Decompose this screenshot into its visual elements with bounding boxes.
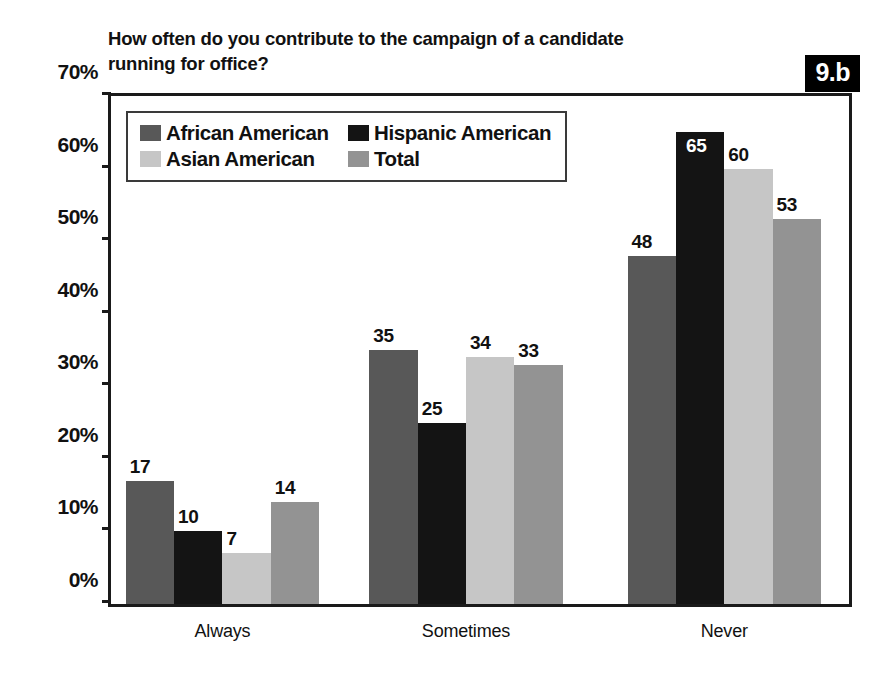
- y-axis-tick-label: 0%: [69, 568, 98, 592]
- bar-slot: 53: [773, 96, 821, 604]
- bar-slot: 48: [628, 96, 676, 604]
- legend-item: Hispanic American: [348, 121, 551, 145]
- bar[interactable]: 10: [174, 531, 222, 604]
- bar-value-label: 10: [178, 506, 199, 528]
- y-axis-tick-label: 20%: [57, 423, 98, 447]
- bar-slot: 60: [724, 96, 772, 604]
- bar-value-label: 17: [130, 456, 151, 478]
- bar[interactable]: 35: [369, 350, 417, 604]
- legend-label: Hispanic American: [374, 121, 551, 145]
- bar-value-label: 53: [777, 194, 798, 216]
- bar-value-label: 33: [518, 340, 539, 362]
- plot-area: 0%10%20%30%40%50%60%70% 1710714352534334…: [111, 96, 849, 604]
- y-axis-tick-mark: [102, 165, 111, 168]
- figure-number-badge: 9.b: [805, 55, 860, 92]
- legend-swatch-icon: [140, 125, 161, 141]
- y-axis-tick-mark: [102, 455, 111, 458]
- legend-label: African American: [166, 121, 329, 145]
- y-axis-tick-mark: [102, 92, 111, 95]
- bar[interactable]: 65: [676, 132, 724, 604]
- bar[interactable]: 25: [418, 423, 466, 604]
- bar-slot: 65: [676, 96, 724, 604]
- y-axis-tick-label: 50%: [57, 205, 98, 229]
- bar-value-label: 60: [728, 144, 749, 166]
- y-axis-tick-mark: [102, 527, 111, 530]
- bar[interactable]: 17: [126, 481, 174, 604]
- figure-container: How often do you contribute to the campa…: [0, 0, 888, 691]
- y-axis-tick-label: 40%: [57, 278, 98, 302]
- bar[interactable]: 34: [466, 357, 514, 604]
- bar-group: 48656053: [628, 96, 821, 604]
- bar-value-label: 14: [275, 477, 296, 499]
- bar-value-label: 34: [470, 332, 491, 354]
- bar-value-label: 48: [632, 231, 653, 253]
- y-axis-tick-label: 30%: [57, 350, 98, 374]
- legend-item: Asian American: [140, 147, 348, 171]
- bar-value-label: 7: [226, 528, 236, 550]
- x-axis-tick-label: Sometimes: [422, 621, 510, 642]
- y-axis-tick-mark: [102, 310, 111, 313]
- bar-value-label: 25: [422, 398, 443, 420]
- bar[interactable]: 48: [628, 256, 676, 604]
- bar[interactable]: 60: [724, 169, 772, 604]
- legend-swatch-icon: [348, 125, 369, 141]
- bar[interactable]: 14: [271, 502, 319, 604]
- y-axis-tick-mark: [102, 237, 111, 240]
- legend-label: Total: [374, 147, 419, 171]
- legend-item: African American: [140, 121, 348, 145]
- legend-swatch-icon: [348, 151, 369, 167]
- legend-label: Asian American: [166, 147, 315, 171]
- bar[interactable]: 33: [514, 365, 562, 604]
- y-axis-tick-mark: [102, 382, 111, 385]
- y-axis-tick-label: 60%: [57, 133, 98, 157]
- legend-swatch-icon: [140, 151, 161, 167]
- y-axis-tick-mark: [102, 600, 111, 603]
- plot-frame: 0%10%20%30%40%50%60%70% 1710714352534334…: [108, 93, 852, 607]
- y-axis-tick-label: 10%: [57, 495, 98, 519]
- legend-item: Total: [348, 147, 551, 171]
- bar[interactable]: 7: [222, 553, 270, 604]
- bar-value-label: 35: [373, 325, 394, 347]
- chart-legend: African AmericanHispanic AmericanAsian A…: [126, 111, 567, 182]
- y-axis-tick-label: 70%: [57, 60, 98, 84]
- x-axis-tick-label: Never: [701, 621, 748, 642]
- bar-value-label: 65: [686, 135, 707, 157]
- x-axis-tick-label: Always: [195, 621, 251, 642]
- page-title: How often do you contribute to the campa…: [108, 26, 748, 76]
- bar[interactable]: 53: [773, 219, 821, 604]
